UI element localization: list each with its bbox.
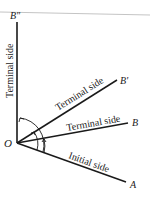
endpoint-label-b-prime: B' (120, 75, 129, 86)
side-label-terminal-b-double-prime: Terminal side (4, 43, 15, 98)
side-label-terminal-b-prime: Terminal side (53, 74, 106, 113)
angle-diagram: O B" B' B A Terminal side Terminal side … (0, 0, 150, 200)
endpoint-label-a: A (129, 179, 137, 190)
side-label-initial: Initial side (67, 150, 111, 175)
endpoint-label-b-double-prime: B" (10, 10, 21, 21)
angle-arc-b-double-prime (20, 118, 44, 152)
arrowhead-icon (19, 118, 24, 122)
origin-label: O (4, 137, 12, 149)
page-rule (0, 12, 150, 15)
endpoint-label-b: B (132, 117, 138, 128)
